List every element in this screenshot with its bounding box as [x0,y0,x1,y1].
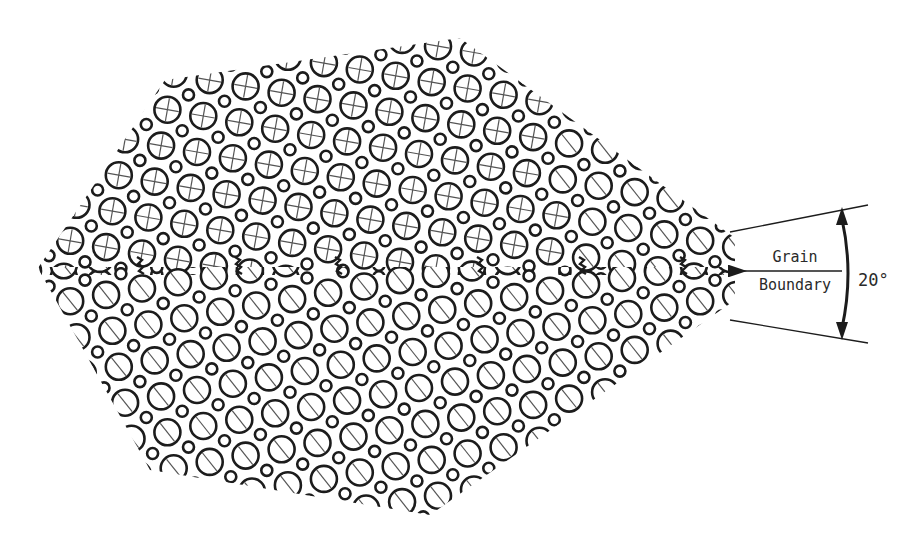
large-atom-icon [520,392,546,418]
small-atom-icon [27,136,38,147]
small-atom-icon [693,389,704,400]
small-atom-icon [327,115,338,126]
small-atom-icon [153,484,164,495]
small-atom-icon [585,408,596,419]
large-atom-icon [243,224,269,250]
small-atom-icon [572,336,583,347]
small-atom-icon [363,121,374,132]
small-atom-icon [722,347,733,358]
large-atom-icon [389,489,415,515]
small-atom-icon [741,454,752,465]
small-atom-icon [302,273,313,284]
small-atom-icon [39,467,50,478]
small-atom-icon [526,492,537,503]
small-atom-icon [494,218,505,229]
large-atom-icon [351,274,377,300]
large-atom-icon [455,76,481,102]
large-atom-icon [357,207,383,233]
large-atom-icon [725,12,751,38]
small-atom-icon [321,380,332,391]
large-atom-icon [448,405,474,431]
small-atom-icon [399,404,410,415]
large-atom-icon [17,481,43,507]
large-atom-icon [503,506,529,532]
large-atom-icon [148,383,174,409]
small-atom-icon [268,501,279,512]
small-atom-icon [578,372,589,383]
small-atom-icon [627,438,638,449]
large-atom-icon [647,481,673,507]
arrowhead-down-icon [836,322,848,340]
large-atom-icon [154,419,180,445]
large-atom-icon [214,181,240,207]
small-atom-icon [333,79,344,90]
small-atom-icon [602,294,613,305]
small-atom-icon [680,317,691,328]
large-atom-icon [478,362,504,388]
small-atom-icon [513,111,524,122]
large-atom-icon [651,221,677,247]
small-atom-icon [99,149,110,160]
small-atom-icon [519,75,530,86]
small-atom-icon [621,130,632,141]
large-atom-icon [556,130,582,156]
large-atom-icon [539,500,565,526]
small-atom-icon [382,518,393,529]
large-atom-icon [527,88,553,114]
small-atom-icon [386,199,397,210]
small-atom-icon [183,89,194,100]
large-atom-icon [383,453,409,479]
small-atom-icon [519,457,530,468]
large-atom-icon [226,407,252,433]
small-atom-icon [63,389,74,400]
large-atom-icon [592,137,618,163]
large-atom-icon [21,295,47,321]
large-atom-icon [742,390,768,416]
large-atom-icon [142,169,168,195]
large-atom-icon [190,103,216,129]
large-atom-icon [95,504,121,530]
small-atom-icon [249,393,260,404]
small-atom-icon [530,225,541,236]
large-atom-icon [292,158,318,184]
small-atom-icon [272,315,283,326]
large-atom-icon [569,457,595,483]
large-atom-icon [503,10,529,36]
large-atom-icon [207,299,233,325]
large-atom-icon [455,441,481,467]
large-atom-icon [275,44,301,70]
small-atom-icon [80,256,91,267]
large-atom-icon [689,510,715,536]
large-atom-icon [425,33,451,59]
large-atom-icon [279,286,305,312]
small-atom-icon [483,463,494,474]
small-atom-icon [92,347,103,358]
small-atom-icon [562,45,573,56]
large-atom-icon [131,18,157,44]
large-atom-icon [281,8,307,34]
large-atom-icon [305,86,331,112]
small-atom-icon [676,28,687,39]
small-atom-icon [513,421,524,432]
small-atom-icon [416,289,427,300]
small-atom-icon [44,250,55,261]
grain-label: Grain [772,248,817,266]
small-atom-icon [488,277,499,288]
large-atom-icon [40,114,66,140]
large-atom-icon [370,135,396,161]
small-atom-icon [50,214,61,225]
crystal-lattice [11,8,769,543]
small-atom-icon [386,332,397,343]
large-atom-icon [497,470,523,496]
large-atom-icon [448,111,474,137]
large-atom-icon [76,396,102,422]
large-atom-icon [598,101,624,127]
small-atom-icon [530,306,541,317]
large-atom-icon [497,46,523,72]
large-atom-icon [634,409,660,435]
small-atom-icon [242,357,253,368]
small-atom-icon [99,382,110,393]
large-atom-icon [533,464,559,490]
small-atom-icon [526,39,537,50]
large-atom-icon [154,97,180,123]
